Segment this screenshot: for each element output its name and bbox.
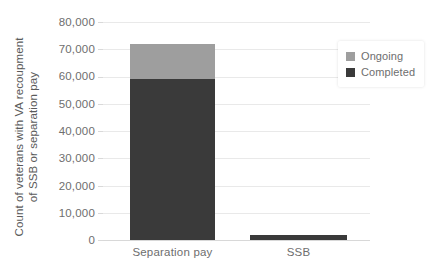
legend-swatch-ongoing: [346, 52, 355, 61]
y-tick-mark: [98, 186, 103, 187]
y-tick-mark: [98, 213, 103, 214]
bar-separation-pay[interactable]: [130, 44, 215, 240]
y-tick-mark: [98, 22, 103, 23]
y-axis-title-line-1: Count of veterans with VA recoupment: [12, 38, 27, 237]
y-tick-label: 0: [88, 234, 95, 246]
bar-segment-ongoing[interactable]: [130, 44, 215, 79]
bar-segment-completed[interactable]: [130, 79, 215, 240]
y-tick-label: 50,000: [59, 98, 95, 110]
y-tick-label: 20,000: [59, 180, 95, 192]
legend: Ongoing Completed: [338, 41, 424, 87]
y-axis-title: Count of veterans with VA recoupment of …: [0, 0, 52, 274]
gridline-80000: [103, 22, 370, 23]
plot-area: [103, 22, 370, 240]
bar-ssb[interactable]: [250, 235, 347, 240]
x-axis-label-ssb: SSB: [250, 246, 347, 258]
y-tick-label: 10,000: [59, 207, 95, 219]
y-tick-label: 80,000: [59, 16, 95, 28]
legend-item-completed[interactable]: Completed: [346, 64, 415, 80]
y-tick-label: 40,000: [59, 125, 95, 137]
legend-swatch-completed: [346, 68, 355, 77]
x-axis-label-separation-pay: Separation pay: [130, 246, 215, 258]
y-tick-mark: [98, 49, 103, 50]
legend-item-ongoing[interactable]: Ongoing: [346, 48, 415, 64]
y-tick-label: 70,000: [59, 43, 95, 55]
y-tick-mark: [98, 77, 103, 78]
bar-chart: Count of veterans with VA recoupment of …: [0, 0, 430, 274]
bar-segment-completed[interactable]: [250, 235, 347, 240]
legend-label-ongoing: Ongoing: [361, 50, 403, 62]
gridline-0-baseline: [103, 240, 370, 241]
y-axis-title-line-2: of SSB or separation pay: [26, 38, 41, 237]
y-tick-mark: [98, 240, 103, 241]
y-tick-mark: [98, 158, 103, 159]
y-tick-mark: [98, 104, 103, 105]
y-tick-mark: [98, 131, 103, 132]
legend-label-completed: Completed: [361, 66, 415, 78]
y-tick-label: 30,000: [59, 152, 95, 164]
y-tick-label: 60,000: [59, 70, 95, 82]
